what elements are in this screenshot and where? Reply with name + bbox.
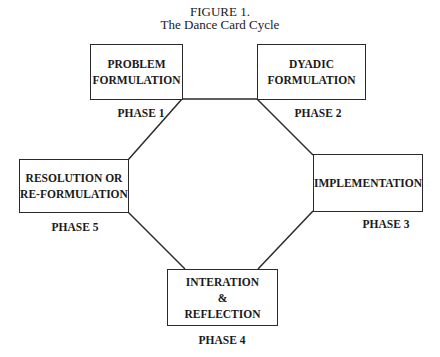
phase-5-label: PHASE 5: [20, 221, 130, 233]
node-interation-reflection: INTERATION & REFLECTION: [167, 269, 278, 326]
node-implementation: IMPLEMENTATION: [313, 154, 423, 212]
node-label-line: RE-FORMULATION: [20, 186, 128, 202]
edge-p4-p5: [128, 212, 185, 269]
edge-p3-p4: [258, 211, 313, 269]
node-label-line: FORMULATION: [93, 72, 181, 88]
node-label-line: INTERATION: [184, 274, 260, 290]
node-label-line: &: [184, 290, 260, 306]
node-label-line: RESOLUTION OR: [20, 170, 128, 186]
node-label-line: IMPLEMENTATION: [314, 175, 422, 191]
phase-3-label: PHASE 3: [331, 218, 440, 230]
node-problem-formulation: PROBLEM FORMULATION: [90, 44, 183, 100]
phase-2-label: PHASE 2: [263, 107, 373, 119]
phase-1-label: PHASE 1: [86, 107, 196, 119]
node-dyadic-formulation: DYADIC FORMULATION: [257, 44, 366, 100]
node-resolution-reformulation: RESOLUTION OR RE-FORMULATION: [19, 159, 129, 213]
node-label-line: FORMULATION: [268, 72, 356, 88]
node-label-line: PROBLEM: [93, 56, 181, 72]
phase-4-label: PHASE 4: [167, 334, 277, 346]
node-label-line: REFLECTION: [184, 306, 260, 322]
node-label-line: DYADIC: [268, 56, 356, 72]
